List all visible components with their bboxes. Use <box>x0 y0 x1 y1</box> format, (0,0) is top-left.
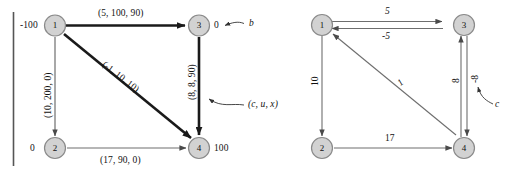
edge-label-1-2: (10, 200, 0) <box>44 72 54 118</box>
edge-label-2-4: (17, 90, 0) <box>100 156 141 166</box>
leader-c-right <box>478 87 493 104</box>
node-label-3-left: 3 <box>191 21 207 30</box>
node-label-2-left: 2 <box>47 144 63 153</box>
redge-4-1 <box>333 34 456 135</box>
figure-container: 1 2 3 4 -100 0 0 100 (5, 100, 90) (10, 2… <box>0 0 511 172</box>
leader-b <box>225 22 244 25</box>
redge-label-1-3: 5 <box>385 7 390 17</box>
figure-vector-layer <box>0 0 511 172</box>
node-label-2-right: 2 <box>314 144 330 153</box>
annotation-b: b <box>249 19 254 29</box>
supply-label-node-3: 0 <box>214 21 219 31</box>
node-label-4-left: 4 <box>191 144 207 153</box>
annotation-c-right: c <box>495 100 499 110</box>
node-label-1-right: 1 <box>314 21 330 30</box>
redge-label-3-4: -8 <box>471 75 481 83</box>
redge-label-2-4: 17 <box>385 134 395 144</box>
node-label-1-left: 1 <box>47 21 63 30</box>
supply-label-node-1: -100 <box>20 21 38 31</box>
supply-label-node-2: 0 <box>30 144 35 154</box>
node-label-4-right: 4 <box>456 144 472 153</box>
node-label-3-right: 3 <box>456 21 472 30</box>
redge-label-4-3: 8 <box>452 78 462 83</box>
redge-label-3-1: -5 <box>382 32 390 42</box>
edge-label-3-4: (8, 8, 90) <box>188 64 198 100</box>
redge-label-1-2: 10 <box>311 76 321 86</box>
edge-label-1-3: (5, 100, 90) <box>98 9 144 19</box>
supply-label-node-4: 100 <box>214 144 229 154</box>
leader-c-u-x <box>209 99 244 105</box>
annotation-c-u-x: (c, u, x) <box>248 100 278 110</box>
